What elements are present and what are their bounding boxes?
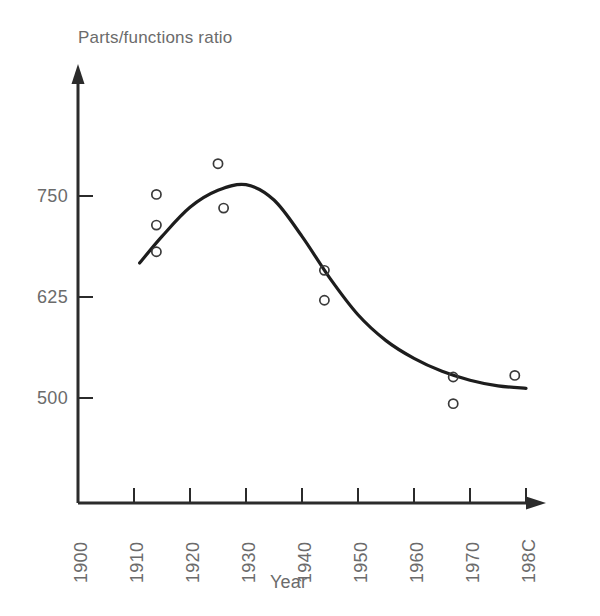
fitted-trend-curve (140, 184, 526, 388)
data-point (219, 204, 228, 213)
data-point (152, 220, 161, 229)
x-tick-label-1900: 1900 (71, 542, 92, 583)
x-tick-label-1930: 1930 (239, 542, 260, 583)
data-point (320, 296, 329, 305)
x-tick-label-1920: 1920 (183, 542, 204, 583)
data-point (449, 399, 458, 408)
x-tick-label-1910: 1910 (127, 542, 148, 583)
y-tick-label-500: 500 (8, 388, 68, 409)
x-tick-label-1980: 198C (519, 539, 540, 583)
x-tick-label-1940: 1940 (295, 542, 316, 583)
chart-figure: Parts/functions ratio Year 750 625 500 1… (0, 0, 600, 616)
x-tick-label-1970: 1970 (463, 542, 484, 583)
x-tick-label-1960: 1960 (407, 542, 428, 583)
data-point (152, 247, 161, 256)
x-axis-arrow-icon (526, 497, 546, 510)
data-point (152, 190, 161, 199)
y-tick-label-750: 750 (8, 186, 68, 207)
chart-plot-area (0, 0, 600, 616)
x-axis (78, 488, 546, 510)
y-axis-title: Parts/functions ratio (78, 28, 232, 48)
data-point (213, 159, 222, 168)
y-axis (72, 64, 94, 503)
y-axis-arrow-icon (72, 64, 85, 84)
y-tick-label-625: 625 (8, 287, 68, 308)
x-tick-label-1950: 1950 (351, 542, 372, 583)
data-point (510, 371, 519, 380)
